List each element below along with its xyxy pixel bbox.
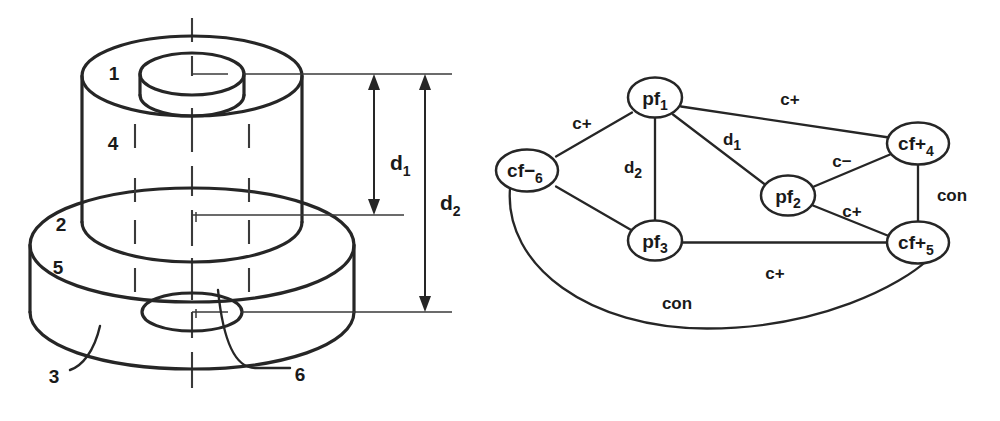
node-pf1[interactable]: pf1 (628, 78, 682, 118)
d1-arrow-up (368, 74, 380, 90)
edge-label-pf1-pf2: d1 (723, 130, 741, 153)
dimension-d1: d1 (368, 74, 411, 215)
edge-pf1-cf6 (556, 113, 632, 157)
d2-arrow-up (419, 74, 431, 90)
edge-pf2-cf4 (814, 155, 890, 187)
edge-label-pf2-cf4: c− (832, 152, 851, 171)
part-drawing-svg: d1 d2 1 2 3 4 (0, 0, 480, 421)
d2-arrow-down (419, 296, 431, 312)
callout-6: 6 (295, 364, 306, 385)
dimension-d2-label: d2 (440, 191, 461, 219)
edge-label-pf1-cf4: c+ (780, 90, 799, 109)
part-drawing-panel: d1 d2 1 2 3 4 (0, 0, 480, 421)
callout-5: 5 (53, 257, 64, 278)
edge-pf3-cf6 (556, 187, 632, 231)
edge-cf6-cf5-arc (510, 189, 928, 329)
edge-pf1-pf2 (673, 115, 765, 185)
edge-label-pf1-pf3: d2 (624, 158, 642, 181)
edge-label-cf6-cf5: con (662, 294, 692, 313)
relation-graph-panel: pf1 pf2 pf3 cf+4 (470, 0, 1000, 421)
figure-root: d1 d2 1 2 3 4 (0, 0, 1000, 421)
graph-edges (510, 107, 928, 329)
node-pf2[interactable]: pf2 (761, 176, 815, 216)
node-cf6[interactable]: cf−6 (496, 150, 558, 192)
edge-label-pf3-cf5: c+ (765, 264, 784, 283)
d1-arrow-down (368, 199, 380, 215)
callout-3-leader (70, 326, 100, 370)
callout-4: 4 (108, 133, 119, 154)
callout-1: 1 (109, 63, 120, 84)
node-pf3[interactable]: pf3 (628, 221, 682, 261)
edge-label-cf4-cf5: con (937, 186, 967, 205)
callout-2: 2 (56, 214, 67, 235)
edge-label-pf1-cf6: c+ (572, 114, 591, 133)
dimension-d2: d2 (419, 74, 461, 312)
node-cf5[interactable]: cf+5 (887, 222, 949, 264)
relation-graph-svg: pf1 pf2 pf3 cf+4 (470, 0, 1000, 421)
edge-label-pf2-cf5: c+ (842, 202, 861, 221)
dimension-d1-label: d1 (390, 151, 411, 179)
node-cf4[interactable]: cf+4 (887, 123, 949, 165)
callout-3: 3 (49, 366, 60, 387)
edge-pf1-cf4 (681, 107, 889, 138)
